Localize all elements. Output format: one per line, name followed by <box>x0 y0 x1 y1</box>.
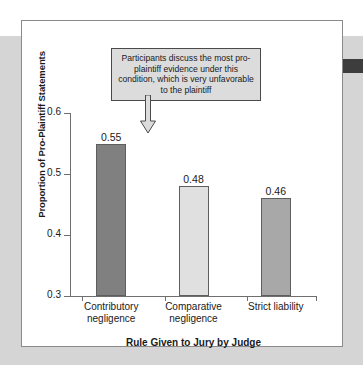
y-axis-tick: 0.6 <box>64 113 70 114</box>
y-axis-tick: 0.4 <box>64 235 70 236</box>
x-axis-category-label: Comparativenegligence <box>152 301 234 325</box>
x-axis-category-label: Contributorynegligence <box>70 301 152 325</box>
figure-card: Proportion of Pro-Plaintiff Statements P… <box>21 20 343 347</box>
category-label-line: Contributory <box>70 301 152 313</box>
y-axis-tick-label: 0.3 <box>47 289 61 300</box>
bar: 0.48 <box>179 186 209 296</box>
bar-value-label: 0.46 <box>266 185 286 197</box>
bar-value-label: 0.48 <box>183 173 203 185</box>
bar: 0.46 <box>261 198 291 296</box>
annotation-callout: Participants discuss the most pro-plaint… <box>111 48 261 101</box>
y-axis-tick-label: 0.4 <box>47 228 61 239</box>
bar-chart: Proportion of Pro-Plaintiff Statements P… <box>22 21 342 346</box>
x-axis-line <box>70 296 317 297</box>
y-axis-tick-label: 0.6 <box>47 106 61 117</box>
y-axis-tick: 0.5 <box>64 174 70 175</box>
x-axis-category-label: Strict liability <box>235 301 317 313</box>
plot-area: 0.30.40.50.6 0.550.480.46 Contributoryne… <box>70 113 317 297</box>
y-axis-title: Proportion of Pro-Plaintiff Statements <box>36 40 47 230</box>
page-edge-band-bottom <box>0 347 363 365</box>
figure-page: Proportion of Pro-Plaintiff Statements P… <box>0 0 363 365</box>
bar: 0.55 <box>96 144 126 297</box>
category-label-line: negligence <box>70 313 152 325</box>
y-axis-tick: 0.3 <box>64 296 70 297</box>
bar-value-label: 0.55 <box>101 131 121 143</box>
category-label-line: Strict liability <box>235 301 317 313</box>
y-axis-tick-label: 0.5 <box>47 167 61 178</box>
x-axis-tick <box>316 296 317 301</box>
category-label-line: negligence <box>152 313 234 325</box>
category-label-line: Comparative <box>152 301 234 313</box>
y-axis-line <box>70 113 71 297</box>
x-axis-title: Rule Given to Jury by Judge <box>70 337 317 348</box>
